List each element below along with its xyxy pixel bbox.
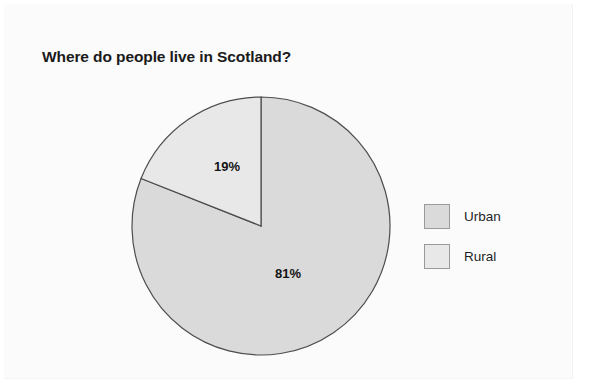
legend-item-rural[interactable]: Rural <box>424 240 554 272</box>
chart-page: Where do people live in Scotland? 19% 81… <box>0 0 594 382</box>
legend-label-rural: Rural <box>464 249 496 264</box>
legend-swatch-rural <box>424 244 450 269</box>
legend-label-urban: Urban <box>464 209 501 224</box>
pie-chart: 19% 81% <box>0 0 594 382</box>
legend-item-urban[interactable]: Urban <box>424 200 554 232</box>
legend-swatch-urban <box>424 204 450 229</box>
pie-label-rural: 19% <box>214 159 240 174</box>
pie-chart-svg: 19% 81% <box>0 0 594 382</box>
pie-label-urban: 81% <box>275 266 301 281</box>
chart-legend: Urban Rural <box>424 200 554 280</box>
